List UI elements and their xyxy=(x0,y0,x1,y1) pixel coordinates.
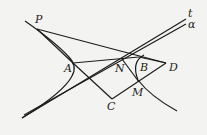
geometry-diagram: P A N B D M C t α xyxy=(0,0,207,135)
label-B: B xyxy=(139,61,148,74)
segment-AB xyxy=(73,57,139,63)
label-C: C xyxy=(107,100,116,113)
label-N: N xyxy=(114,62,125,75)
label-alpha: α xyxy=(188,18,196,31)
label-M: M xyxy=(131,86,144,99)
label-A: A xyxy=(63,62,72,75)
line-t xyxy=(22,19,186,118)
label-D: D xyxy=(168,61,178,74)
label-P: P xyxy=(34,13,43,26)
